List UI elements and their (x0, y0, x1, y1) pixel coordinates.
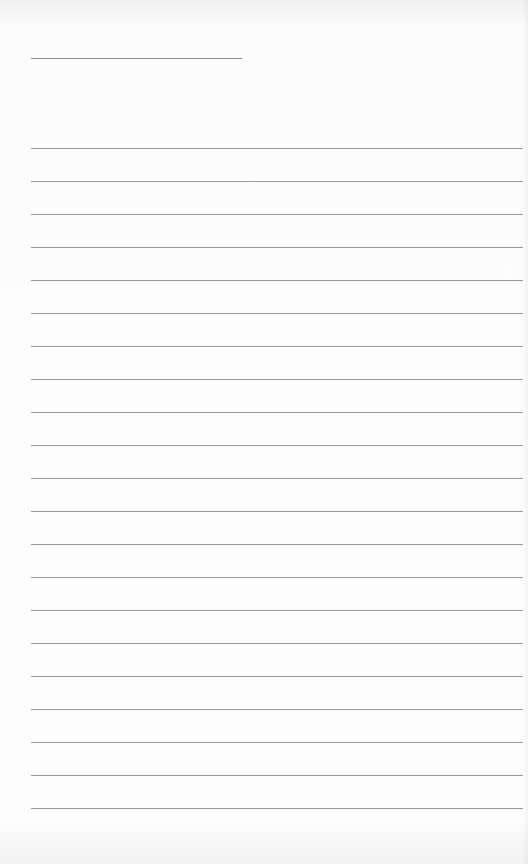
ruled-line (31, 643, 523, 644)
ruled-line (31, 412, 523, 413)
ruled-line (31, 247, 523, 248)
ruled-line (31, 148, 523, 149)
ruled-line (31, 775, 523, 776)
ruled-line (31, 313, 523, 314)
page-edge-shadow (522, 0, 528, 864)
ruled-line (31, 346, 523, 347)
ruled-line (31, 445, 523, 446)
ruled-line (31, 709, 523, 710)
lined-paper-page (0, 0, 528, 864)
ruled-line (31, 742, 523, 743)
ruled-line (31, 214, 523, 215)
ruled-line (31, 544, 523, 545)
ruled-line (31, 379, 523, 380)
ruled-line (31, 181, 523, 182)
ruled-line (31, 511, 523, 512)
title-underline (31, 58, 242, 59)
ruled-line (31, 610, 523, 611)
ruled-line (31, 280, 523, 281)
ruled-line (31, 478, 523, 479)
ruled-line (31, 808, 523, 809)
ruled-line (31, 676, 523, 677)
ruled-line (31, 577, 523, 578)
